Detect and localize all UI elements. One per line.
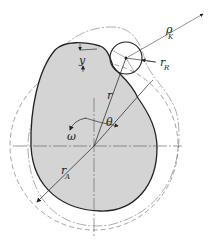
label-theta: θ <box>106 116 113 129</box>
label-y: y <box>78 54 86 67</box>
theta-ref-extension <box>148 80 153 85</box>
label-rho-sub: K <box>167 33 174 41</box>
label-omega: ω <box>67 130 76 143</box>
cam-diagram: y r θ ω r A r R ρ K <box>0 0 215 244</box>
roller-diag-1 <box>112 50 126 58</box>
label-rA-sub: A <box>64 173 70 181</box>
roller-diag-2 <box>126 58 135 73</box>
label-r: r <box>107 89 113 102</box>
label-rR-sub: R <box>163 64 170 72</box>
rR-arrow <box>142 60 156 62</box>
